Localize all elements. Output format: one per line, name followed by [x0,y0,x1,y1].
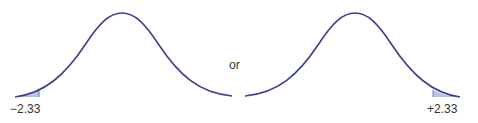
left-critical-value-label: −2.33 [10,102,40,116]
or-connector-text: or [229,58,240,72]
right-critical-value-label: +2.33 [427,102,457,116]
left-normal-curve [15,13,232,97]
right-normal-curve [245,13,460,97]
